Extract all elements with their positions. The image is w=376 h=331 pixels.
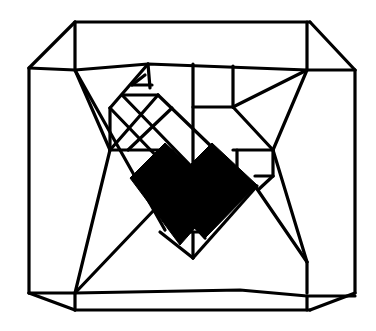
wireframe-drawing — [0, 0, 376, 331]
diagram-canvas: Octagonal wireframe with central black d… — [0, 0, 376, 331]
